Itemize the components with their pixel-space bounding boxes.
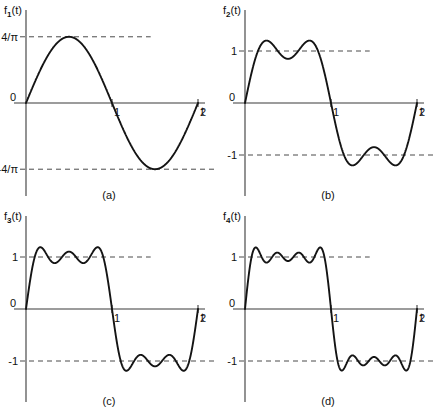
x-tick-label-1-c: 1 bbox=[114, 312, 120, 324]
origin-label-d: 0 bbox=[229, 297, 235, 309]
y-pos-label-a: 4/π bbox=[1, 31, 18, 43]
axis-variable-c: t bbox=[201, 311, 204, 323]
y-pos-label-c: 1 bbox=[12, 251, 18, 263]
function-label-d: f4(t) bbox=[223, 210, 241, 225]
figure-root: f1(t)012t4/π-4/π(a) f2(t)012t1-1(b) f3(t… bbox=[0, 0, 437, 412]
function-label-b: f2(t) bbox=[223, 4, 241, 19]
x-tick-label-1-d: 1 bbox=[333, 312, 339, 324]
chart-a: f1(t)012t4/π-4/π(a) bbox=[0, 0, 218, 206]
y-neg-label-c: -1 bbox=[8, 355, 18, 367]
origin-label-c: 0 bbox=[10, 297, 16, 309]
chart-d: f4(t)012t1-1(d) bbox=[219, 206, 437, 412]
caption-d: (d) bbox=[321, 395, 334, 407]
caption-c: (c) bbox=[103, 395, 116, 407]
axis-variable-b: t bbox=[420, 105, 423, 117]
panel-b: f2(t)012t1-1(b) bbox=[219, 0, 437, 206]
y-pos-label-b: 1 bbox=[231, 45, 237, 57]
origin-label-b: 0 bbox=[229, 91, 235, 103]
axis-variable-a: t bbox=[201, 105, 204, 117]
y-neg-label-b: -1 bbox=[227, 149, 237, 161]
chart-c: f3(t)012t1-1(c) bbox=[0, 206, 218, 412]
y-neg-label-a: -4/π bbox=[0, 163, 18, 175]
function-label-c: f3(t) bbox=[4, 210, 22, 225]
axis-variable-d: t bbox=[420, 311, 423, 323]
caption-b: (b) bbox=[321, 189, 334, 201]
origin-label-a: 0 bbox=[10, 91, 16, 103]
y-neg-label-d: -1 bbox=[227, 355, 237, 367]
panel-a: f1(t)012t4/π-4/π(a) bbox=[0, 0, 218, 206]
panel-c: f3(t)012t1-1(c) bbox=[0, 206, 218, 412]
x-tick-label-1-b: 1 bbox=[333, 106, 339, 118]
function-label-a: f1(t) bbox=[4, 4, 22, 19]
chart-b: f2(t)012t1-1(b) bbox=[219, 0, 437, 206]
x-tick-label-1-a: 1 bbox=[114, 106, 120, 118]
y-pos-label-d: 1 bbox=[231, 251, 237, 263]
panel-d: f4(t)012t1-1(d) bbox=[219, 206, 437, 412]
caption-a: (a) bbox=[102, 189, 115, 201]
